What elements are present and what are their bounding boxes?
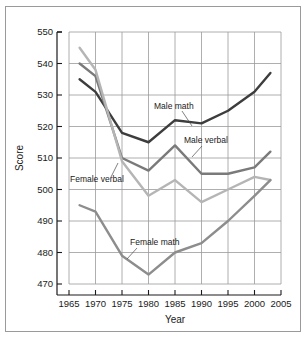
y-tick-label-480: 480 [37, 247, 53, 258]
x-tick-label-1965: 1965 [58, 298, 79, 309]
chart-frame: 4704804905005105205305405501965197019751… [5, 6, 301, 332]
annotation-leader-male-verbal [192, 146, 202, 157]
y-tick-label-550: 550 [37, 26, 53, 37]
y-axis-title: Score [14, 145, 25, 172]
annotation-label-female-math: Female math [130, 237, 180, 247]
x-tick-label-1995: 1995 [217, 298, 238, 309]
annotation-label-male-verbal: Male verbal [184, 135, 228, 145]
x-tick-label-1985: 1985 [164, 298, 185, 309]
y-tick-label-530: 530 [37, 89, 53, 100]
x-tick-label-1990: 1990 [191, 298, 212, 309]
x-tick-label-1975: 1975 [111, 298, 132, 309]
annotation-leader-female-math [127, 248, 137, 259]
annotation-label-male-math: Male math [154, 101, 194, 111]
x-tick-label-2005: 2005 [270, 298, 291, 309]
x-tick-label-2000: 2000 [244, 298, 265, 309]
y-tick-label-510: 510 [37, 152, 53, 163]
annotation-leader-male-math [182, 111, 192, 126]
x-tick-label-1980: 1980 [138, 298, 159, 309]
x-axis-title: Year [165, 314, 186, 325]
y-tick-label-520: 520 [37, 121, 53, 132]
y-tick-label-540: 540 [37, 58, 53, 69]
y-tick-label-500: 500 [37, 184, 53, 195]
y-tick-label-490: 490 [37, 215, 53, 226]
y-tick-label-470: 470 [37, 278, 53, 289]
annotations-group: Male mathMale verbalFemale verbalFemale … [70, 101, 228, 259]
line-chart: 4704804905005105205305405501965197019751… [6, 7, 300, 331]
annotation-label-female-verbal: Female verbal [70, 174, 124, 184]
chart-figure: 4704804905005105205305405501965197019751… [0, 0, 307, 339]
x-tick-label-1970: 1970 [85, 298, 106, 309]
